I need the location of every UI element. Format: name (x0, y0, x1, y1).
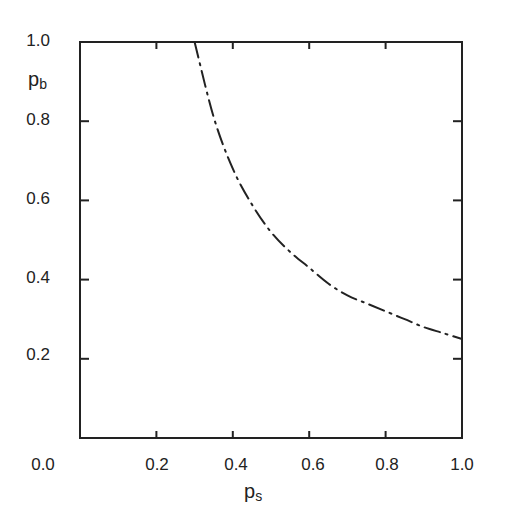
x-axis-ticks (156, 42, 385, 438)
y-tick-label-0.6: 0.6 (0, 189, 50, 209)
y-tick-label-0.4: 0.4 (0, 268, 50, 288)
x-tick-label-0.2: 0.2 (132, 455, 182, 475)
dash-dot-curve (195, 42, 462, 339)
y-tick-label-0.8: 0.8 (0, 110, 50, 130)
x-tick-label-0.4: 0.4 (211, 455, 261, 475)
x-tick-label-0.0: 0.0 (18, 455, 68, 475)
x-tick-label-1.0: 1.0 (437, 455, 487, 475)
x-tick-label-0.6: 0.6 (288, 455, 338, 475)
x-tick-label-0.8: 0.8 (362, 455, 412, 475)
y-tick-label-0.2: 0.2 (0, 345, 50, 365)
y-tick-label-1.0: 1.0 (0, 31, 50, 51)
x-axis-title: ps (244, 480, 262, 504)
y-axis-title: pb (28, 68, 47, 92)
plot-frame (80, 42, 462, 438)
plot-area (0, 0, 507, 529)
y-axis-ticks (80, 121, 462, 359)
